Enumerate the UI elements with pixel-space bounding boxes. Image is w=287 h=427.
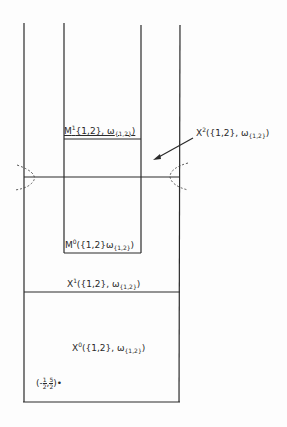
m1-close: )	[132, 126, 136, 136]
x0-body: ({1,2}, ω	[82, 343, 125, 353]
label-m1: M1{1,2}, ω{1,2})	[64, 124, 135, 137]
m1-base: M	[64, 126, 72, 136]
label-x0: X0({1,2}, ω{1,2})	[72, 341, 145, 354]
x2-arrowhead	[153, 154, 161, 160]
x2-arrow-line	[157, 138, 193, 158]
m0-body: ({1,2}	[77, 240, 106, 250]
x1-close: )	[137, 279, 141, 289]
x0-sub: {1,2}	[125, 347, 142, 354]
point-open: (-	[36, 378, 43, 388]
label-x1: X1({1,2}, ω{1,2})	[67, 277, 140, 290]
x2-body: ({1,2}, ω	[206, 128, 249, 138]
m1-body: {1,2}, ω	[76, 126, 115, 136]
x2-close: )	[266, 128, 270, 138]
m1-sub: {1,2}	[115, 130, 132, 137]
x1-body: ({1,2}, ω	[77, 279, 120, 289]
label-x2: X2({1,2}, ω{1,2})	[196, 126, 269, 139]
m0-close: )	[131, 240, 135, 250]
m0-base: M	[65, 240, 73, 250]
label-point: (-12,52)•	[36, 377, 62, 390]
x1-sub: {1,2}	[120, 283, 137, 290]
label-m0: M0({1,2}ω{1,2})	[65, 238, 134, 251]
diagram-canvas	[0, 0, 287, 427]
outer-right-line	[179, 25, 180, 402]
m0-sub: {1,2}	[113, 244, 130, 251]
point-close: )•	[53, 378, 62, 388]
x2-sub: {1,2}	[249, 132, 266, 139]
x0-close: )	[142, 343, 146, 353]
